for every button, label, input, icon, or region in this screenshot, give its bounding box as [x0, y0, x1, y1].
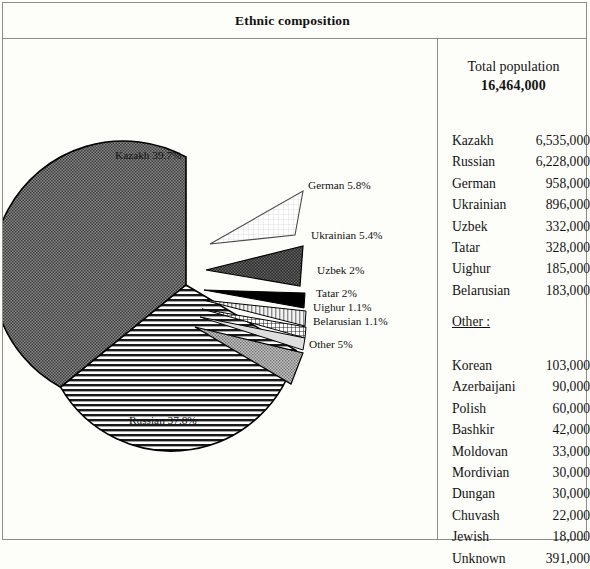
other-group-name: Mordivian [452, 462, 509, 483]
pie-chart-area: Kazakh 39.7% German 5.8% Ukrainian 5.4% … [3, 39, 437, 539]
table-row: Tatar328,000 [452, 237, 590, 258]
other-groups-table: Korean103,000Azerbaijani90,000Polish60,0… [452, 355, 590, 569]
pie-label-kazakh: Kazakh 39.7% [115, 149, 182, 161]
ethnic-group-value: 183,000 [546, 280, 590, 301]
ethnic-group-name: Tatar [452, 237, 480, 258]
table-row: Korean103,000 [452, 355, 590, 376]
other-group-value: 103,000 [546, 355, 590, 376]
pie-label-uighur: Uighur 1.1% [313, 301, 371, 313]
other-group-value: 22,000 [553, 505, 590, 526]
ethnic-group-value: 896,000 [546, 194, 590, 215]
other-groups-heading: Other : [452, 314, 490, 330]
table-row: Azerbaijani90,000 [452, 376, 590, 397]
table-row: Dungan30,000 [452, 483, 590, 504]
table-row: Chuvash22,000 [452, 505, 590, 526]
ethnic-group-name: Uighur [452, 258, 491, 279]
table-row: Ukrainian896,000 [452, 194, 590, 215]
table-row: Russian6,228,000 [452, 151, 590, 172]
ethnic-group-name: Ukrainian [452, 194, 506, 215]
page-title: Ethnic composition [0, 13, 585, 29]
other-group-value: 30,000 [553, 483, 590, 504]
other-group-name: Korean [452, 355, 492, 376]
ethnic-group-value: 328,000 [546, 237, 590, 258]
table-row: Jewish18,000 [452, 526, 590, 547]
total-population-value: 16,464,000 [440, 77, 587, 96]
other-group-name: Chuvash [452, 505, 500, 526]
ethnic-group-name: Uzbek [452, 216, 487, 237]
other-group-value: 42,000 [553, 419, 590, 440]
pie-label-belarusian: Belarusian 1.1% [313, 315, 388, 327]
pie-chart-svg [3, 39, 437, 539]
table-row: Uighur185,000 [452, 258, 590, 279]
ethnic-group-name: German [452, 173, 496, 194]
other-group-value: 60,000 [553, 398, 590, 419]
table-row: Kazakh6,535,000 [452, 130, 590, 151]
ethnic-group-name: Belarusian [452, 280, 510, 301]
other-group-name: Moldovan [452, 441, 508, 462]
total-population-label: Total population [440, 58, 587, 77]
table-row: Uzbek332,000 [452, 216, 590, 237]
ethnic-group-value: 6,535,000 [536, 130, 590, 151]
other-group-value: 30,000 [553, 462, 590, 483]
table-row: Bashkir42,000 [452, 419, 590, 440]
pie-label-uzbek: Uzbek 2% [317, 264, 364, 276]
total-population-block: Total population 16,464,000 [440, 58, 587, 96]
table-row: German958,000 [452, 173, 590, 194]
pie-slice-german [210, 191, 303, 244]
table-row: Unknown391,000 [452, 548, 590, 569]
table-row: Belarusian183,000 [452, 280, 590, 301]
pie-label-german: German 5.8% [308, 179, 371, 191]
other-group-value: 18,000 [553, 526, 590, 547]
other-group-name: Jewish [452, 526, 489, 547]
other-group-name: Polish [452, 398, 486, 419]
pie-label-tatar: Tatar 2% [316, 287, 357, 299]
other-group-name: Azerbaijani [452, 376, 515, 397]
other-group-name: Unknown [452, 548, 506, 569]
other-group-name: Bashkir [452, 419, 494, 440]
pie-label-other: Other 5% [309, 338, 353, 350]
pie-label-russian: Russian 37.8% [129, 414, 197, 426]
pie-label-ukrainian: Ukrainian 5.4% [311, 229, 383, 241]
panel-divider [437, 39, 438, 539]
pie-slice-ukrainian [206, 246, 303, 286]
ethnic-group-value: 332,000 [546, 216, 590, 237]
table-row: Mordivian30,000 [452, 462, 590, 483]
other-group-value: 90,000 [553, 376, 590, 397]
ethnic-group-value: 6,228,000 [536, 151, 590, 172]
other-group-value: 391,000 [546, 548, 590, 569]
other-group-name: Dungan [452, 483, 495, 504]
ethnic-group-name: Russian [452, 151, 495, 172]
ethnic-group-value: 958,000 [546, 173, 590, 194]
other-group-value: 33,000 [553, 441, 590, 462]
ethnic-group-name: Kazakh [452, 130, 494, 151]
table-row: Moldovan33,000 [452, 441, 590, 462]
main-groups-table: Kazakh6,535,000Russian6,228,000German958… [452, 130, 590, 301]
ethnic-group-value: 185,000 [546, 258, 590, 279]
table-row: Polish60,000 [452, 398, 590, 419]
